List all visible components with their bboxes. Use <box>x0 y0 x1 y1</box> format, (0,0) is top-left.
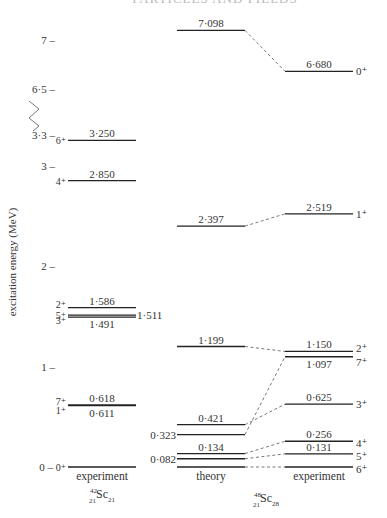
correspondence-dashed-line <box>245 404 285 425</box>
correspondence-dashed-line <box>245 441 285 453</box>
correspondence-dashed-line <box>245 214 285 226</box>
spin-parity-label: 2⁺ <box>56 299 66 310</box>
spin-parity-label: 0⁺ <box>56 462 66 473</box>
axis-tick-label: 3 – <box>41 160 55 172</box>
spin-parity-label: 2⁺ <box>356 342 368 354</box>
spin-parity-label: 3⁺ <box>356 398 368 410</box>
spin-parity-label: 7⁺ <box>56 396 66 407</box>
axis-tick-label: 7 – <box>41 34 55 46</box>
spin-parity-label: 1⁺ <box>356 208 368 220</box>
nucleus-label-48sc: 4821Sc28 <box>253 491 280 509</box>
axis-break-zigzag <box>29 101 39 131</box>
energy-value-label: 0·323 <box>150 429 176 441</box>
energy-value-label: 6·680 <box>306 58 332 70</box>
axis-tick-label: 0 – <box>39 461 53 473</box>
energy-value-label: 1·491 <box>89 318 115 330</box>
column-title: experiment <box>293 470 346 483</box>
column-title: experiment <box>76 470 129 483</box>
energy-value-label: 0·131 <box>306 441 332 453</box>
energy-value-label: 2·850 <box>89 168 115 180</box>
energy-value-label: 0·625 <box>306 391 332 403</box>
axis-tick-label: 2 – <box>41 260 55 272</box>
spin-parity-label: 7⁺ <box>356 356 368 368</box>
energy-value-label: 0·082 <box>150 453 176 465</box>
energy-value-label: 1·511 <box>137 309 162 321</box>
axis-tick-label: 1 – <box>41 361 55 373</box>
energy-value-label: 1·097 <box>306 358 332 370</box>
spin-parity-label: 5⁺ <box>356 450 368 462</box>
energy-value-label: 1·586 <box>89 295 115 307</box>
correspondence-dashed-line <box>245 30 285 71</box>
level-scheme-diagram: excitation energy (MeV)0 –1 –2 –3 –3·3 –… <box>0 0 387 518</box>
correspondence-dashed-line <box>245 454 285 459</box>
nucleus-label-42sc: 4221Sc21 <box>89 487 116 505</box>
correspondence-dashed-line <box>245 357 285 435</box>
energy-value-label: 0·611 <box>89 407 114 419</box>
energy-value-label: 3·250 <box>89 127 115 139</box>
axis-tick-label: 6·5 – <box>32 83 55 95</box>
spin-parity-label: 4⁺ <box>56 176 66 187</box>
energy-value-label: 0·618 <box>89 392 115 404</box>
column-title: theory <box>196 470 226 483</box>
axis-tick-label: 3·3 – <box>32 129 55 141</box>
energy-value-label: 0·134 <box>198 441 224 453</box>
correspondence-dashed-line <box>245 347 285 352</box>
y-axis-label: excitation energy (MeV) <box>6 207 19 316</box>
energy-value-label: 1·199 <box>198 334 224 346</box>
energy-value-label: 1·150 <box>306 338 332 350</box>
energy-value-label: 0·421 <box>198 412 224 424</box>
spin-parity-label: 4⁺ <box>356 437 368 449</box>
energy-value-label: 7·098 <box>198 17 224 29</box>
spin-parity-label: 5⁺ <box>56 310 66 321</box>
spin-parity-label: 6⁺ <box>356 463 368 475</box>
spin-parity-label: 0⁺ <box>356 65 368 77</box>
energy-value-label: 0·256 <box>306 428 332 440</box>
energy-value-label: 2·519 <box>306 201 332 213</box>
spin-parity-label: 6⁺ <box>56 135 66 146</box>
energy-value-label: 2·397 <box>198 213 224 225</box>
